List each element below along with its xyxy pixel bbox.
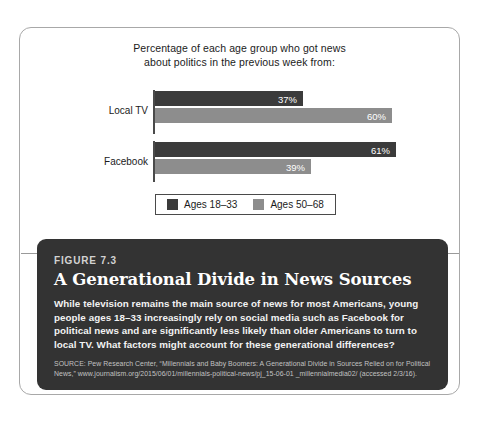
bar-value-local-tv-ages-18-33: 37%	[278, 93, 297, 104]
legend-label-ages-50-68: Ages 50–68	[270, 199, 323, 210]
category-label-facebook: Facebook	[28, 156, 148, 167]
chart-title-line-1: Percentage of each age group who got new…	[20, 42, 459, 56]
chart-title: Percentage of each age group who got new…	[20, 42, 459, 69]
legend-swatch-ages-18-33	[167, 199, 178, 210]
bar-facebook-ages-50-68: 39%	[155, 159, 311, 174]
figure-card: Percentage of each age group who got new…	[19, 27, 460, 395]
figure-number-label: FIGURE 7.3	[54, 255, 431, 266]
figure-source-citation: SOURCE: Pew Research Center, “Millennial…	[54, 359, 431, 379]
bar-chart-plot: Local TV Facebook 37% 60% 61% 39%	[98, 90, 438, 182]
chart-legend: Ages 18–33 Ages 50–68	[155, 194, 336, 215]
legend-item-ages-18-33: Ages 18–33	[167, 199, 237, 210]
bar-facebook-ages-18-33: 61%	[155, 142, 396, 157]
bar-value-local-tv-ages-50-68: 60%	[367, 110, 386, 121]
bar-value-facebook-ages-18-33: 61%	[371, 144, 390, 155]
legend-swatch-ages-50-68	[253, 199, 264, 210]
bar-value-facebook-ages-50-68: 39%	[286, 161, 305, 172]
chart-title-line-2: about politics in the previous week from…	[20, 56, 459, 70]
bar-local-tv-ages-50-68: 60%	[155, 108, 392, 123]
bar-local-tv-ages-18-33: 37%	[155, 91, 303, 106]
chart-region: Percentage of each age group who got new…	[20, 28, 459, 232]
category-label-local-tv: Local TV	[28, 105, 148, 116]
figure-caption-panel: FIGURE 7.3 A Generational Divide in News…	[37, 239, 448, 390]
legend-item-ages-50-68: Ages 50–68	[253, 199, 323, 210]
figure-heading: A Generational Divide in News Sources	[54, 270, 431, 289]
figure-caption-body: While television remains the main source…	[54, 297, 431, 351]
legend-label-ages-18-33: Ages 18–33	[184, 199, 237, 210]
